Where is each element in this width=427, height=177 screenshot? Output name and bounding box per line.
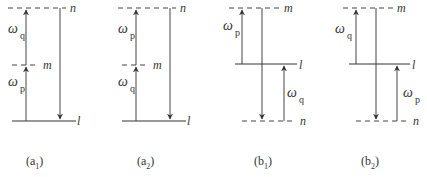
level-label-bottom: l (77, 114, 81, 128)
level-label-bottom: n (413, 114, 419, 128)
freq-label-upper: ωp (118, 21, 135, 41)
level-label-bottom: l (187, 114, 191, 128)
freq-label-lower: ωp (8, 74, 25, 94)
level-label-top: m (284, 1, 293, 15)
panel-a2: n m l ωp ωq (a2) (118, 1, 191, 171)
level-label-top: n (70, 1, 76, 15)
level-label-mid: l (299, 58, 303, 72)
panel-a1: n m l ωq ωp (a1) (8, 1, 81, 171)
level-label-mid: m (153, 58, 162, 72)
level-label-mid: l (412, 58, 416, 72)
level-label-top: n (180, 1, 186, 15)
panel-caption: (b1) (254, 154, 272, 171)
level-label-bottom: n (300, 114, 306, 128)
panel-b2: m l n ωq ωp (b2) (335, 1, 420, 171)
level-label-mid: m (43, 58, 52, 72)
panel-caption: (b2) (361, 154, 379, 171)
freq-label-left: ωq (335, 21, 352, 41)
freq-label-left: ωp (223, 18, 240, 38)
freq-label-upper: ωq (8, 21, 25, 41)
panel-caption: (a1) (26, 154, 43, 171)
energy-level-diagrams: n m l ωq ωp (a1) n m l ωp ωq (a2) m l n (0, 0, 427, 177)
panel-b1: m l n ωp ωq (b1) (223, 1, 306, 171)
level-label-top: m (397, 1, 406, 15)
freq-label-lower: ωq (118, 74, 135, 94)
freq-label-right: ωq (287, 85, 304, 105)
freq-label-right: ωp (403, 85, 420, 105)
panel-caption: (a2) (137, 154, 154, 171)
